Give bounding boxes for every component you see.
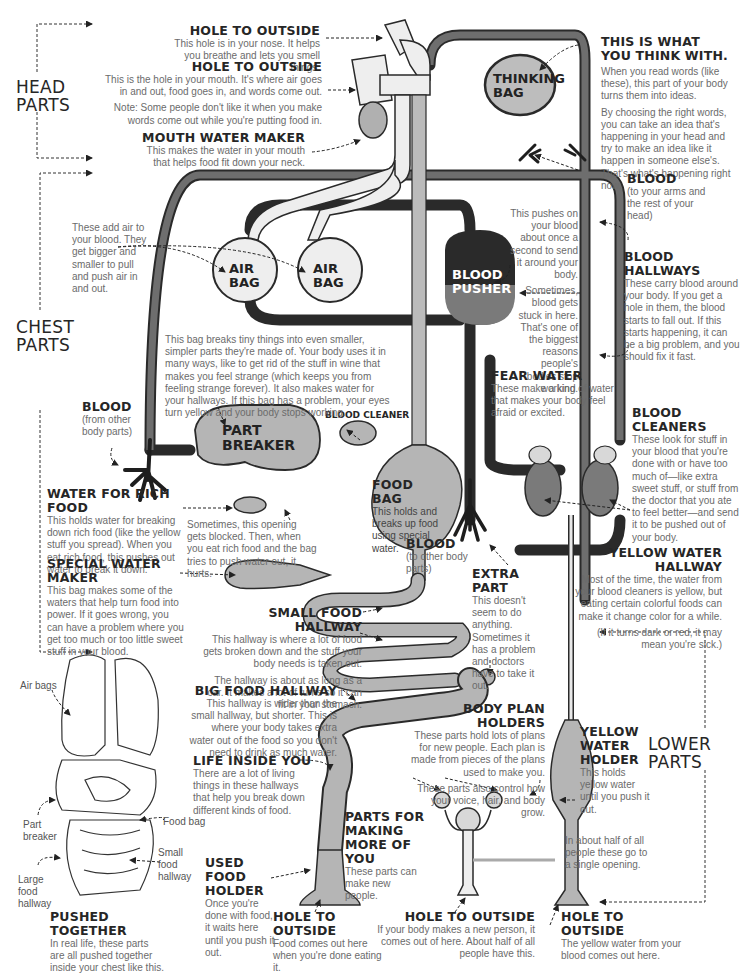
callout-special-water-maker: SPECIAL WATER MAKER This bag makes some …	[47, 557, 187, 658]
callout-title: PUSHED TOGETHER	[50, 910, 165, 938]
callout-title: BLOOD CLEANERS	[632, 406, 741, 434]
callout-text: The yellow water from your blood comes o…	[561, 938, 691, 962]
callout-making-more: PARTS FOR MAKING MORE OF YOU These parts…	[345, 810, 425, 903]
callout-text: These parts hold lots of plans for new p…	[410, 730, 545, 779]
callout-text: This hallway is where a lot of food gets…	[200, 634, 362, 671]
section-chest-parts: CHEST PARTS	[16, 318, 74, 354]
callout-title: USED FOOD HOLDER	[205, 856, 275, 898]
inset-label-large-food-hallway: Large food hallway	[18, 874, 51, 910]
callout-text-2: These parts also control how your voice,…	[410, 783, 545, 820]
callout-body-plan-holders: BODY PLAN HOLDERS These parts hold lots …	[410, 702, 545, 823]
section-head-parts: HEAD PARTS	[16, 78, 70, 114]
inset-label-food-bag: Food bag	[163, 816, 205, 828]
callout-text: If your body makes a new person, it come…	[375, 924, 535, 961]
callout-text: This holds yellow water until you push i…	[580, 767, 655, 816]
callout-yellow-water-holder: YELLOW WATER HOLDER This holds yellow wa…	[580, 725, 655, 816]
callout-title: BIG FOOD HALLWAY	[185, 684, 337, 698]
callout-text: Most of the time, the water from your bl…	[570, 574, 722, 623]
callout-title: BLOOD	[406, 537, 476, 551]
callout-yellow-water-hallway: YELLOW WATER HALLWAY Most of the time, t…	[570, 546, 722, 655]
part-breaker-label: PART BREAKER	[222, 423, 295, 453]
callout-text: (to other body parts)	[406, 551, 476, 575]
callout-hole-baby: HOLE TO OUTSIDE If your body makes a new…	[375, 910, 535, 961]
callout-text: When you read words (like these), this p…	[601, 66, 731, 103]
callout-title: HOLE TO OUTSIDE	[273, 910, 383, 938]
callout-title: SMALL FOOD HALLWAY	[200, 606, 362, 634]
callout-part-breaker: This bag breaks tiny things into even sm…	[165, 334, 395, 419]
callout-text: There are a lot of living things in thes…	[193, 768, 313, 817]
blood-cleaners-organ	[525, 460, 618, 516]
inset-label-air-bags: Air bags	[20, 680, 57, 692]
callout-title: WATER FOR RICH FOOD	[47, 487, 187, 515]
callout-blood-cleaners: BLOOD CLEANERS These look for stuff in y…	[632, 406, 741, 544]
callout-text: This hallway is wider than the small hal…	[185, 698, 337, 759]
food-tube	[412, 95, 426, 445]
callout-title: PARTS FOR MAKING MORE OF YOU	[345, 810, 425, 866]
callout-extra-part: EXTRA PART This doesn't seem to do anyth…	[472, 567, 547, 693]
callout-life-inside-you: LIFE INSIDE YOU There are a lot of livin…	[193, 754, 313, 817]
callout-title: YELLOW WATER HOLDER	[580, 725, 655, 767]
callout-mouth-water-maker: MOUTH WATER MAKER This makes the water i…	[140, 131, 305, 169]
fear-water-organs	[529, 446, 616, 464]
inset-label-small-food-hallway: Small food hallway	[158, 847, 191, 883]
callout-mouth-hole: HOLE TO OUTSIDE This is the hole in your…	[98, 60, 322, 131]
callout-text: (from other body parts)	[82, 414, 152, 438]
blood-cleaner-organ	[340, 421, 376, 445]
callout-title: BODY PLAN HOLDERS	[410, 702, 545, 730]
callout-hole-yellow: HOLE TO OUTSIDE The yellow water from yo…	[561, 910, 691, 962]
callout-blood-hallways: BLOOD HALLWAYS These carry blood around …	[624, 250, 741, 363]
callout-fear-water: FEAR WATER These make a kind of water th…	[491, 369, 616, 420]
callout-title: BLOOD HALLWAYS	[624, 250, 741, 278]
air-bag-left-label: AIR BAG	[229, 262, 260, 290]
callout-text: These carry blood around your body. If y…	[624, 278, 741, 363]
callout-text: Once you're done with food, it waits her…	[205, 898, 275, 959]
callout-title: HOLE TO OUTSIDE	[98, 60, 322, 74]
callout-title: FOOD BAG	[372, 478, 442, 506]
callout-hole-food: HOLE TO OUTSIDE Food comes out here when…	[273, 910, 383, 975]
section-lower-parts: LOWER PARTS	[648, 735, 711, 771]
callout-title: HOLE TO OUTSIDE	[170, 24, 320, 38]
callout-text: These look for stuff in your blood that …	[632, 434, 741, 544]
thinking-bag-label: THINKING BAG	[493, 72, 565, 100]
callout-blood-left: BLOOD (from other body parts)	[82, 400, 152, 438]
callout-title: EXTRA PART	[472, 567, 547, 595]
callout-text: This is the hole in your mouth. It's whe…	[98, 74, 322, 98]
callout-text: These make a kind of water that makes yo…	[491, 383, 616, 420]
inset-label-part-breaker: Part breaker	[23, 819, 57, 843]
callout-text: This makes the water in your mouth that …	[140, 145, 305, 169]
callout-blood-mid: BLOOD (to other body parts)	[406, 537, 476, 575]
callout-text: These parts can make new people.	[345, 866, 425, 903]
callout-title: HOLE TO OUTSIDE	[561, 910, 691, 938]
callout-text: (to your arms and the rest of your head)	[627, 186, 707, 223]
callout-title: BLOOD	[82, 400, 152, 414]
callout-air-bags: These add air to your blood. They get bi…	[72, 222, 147, 295]
inset-organs-drawing	[56, 655, 158, 895]
callout-text: This pushes on your blood about once a s…	[510, 208, 578, 281]
callout-title: FEAR WATER	[491, 369, 616, 383]
callout-text-2: (If it turns dark or red, it may mean yo…	[570, 627, 722, 651]
mouth-water-maker	[359, 102, 387, 138]
callout-blood-top: BLOOD (to your arms and the rest of your…	[627, 172, 707, 223]
callout-text: This bag makes some of the waters that h…	[47, 585, 187, 658]
callout-text: In real life, these parts are all pushed…	[50, 938, 165, 975]
callout-single-opening: In about half of all people these go to …	[565, 835, 655, 872]
callout-opening-blocked: Sometimes, this opening gets blocked. Th…	[187, 519, 317, 580]
callout-title: HOLE TO OUTSIDE	[375, 910, 535, 924]
callout-used-food-holder: USED FOOD HOLDER Once you're done with f…	[205, 856, 275, 959]
callout-title: BLOOD	[627, 172, 707, 186]
air-bag-right-label: AIR BAG	[313, 262, 344, 290]
gallbladder-organ	[234, 497, 266, 513]
callout-title: THIS IS WHAT YOU THINK WITH.	[601, 35, 731, 63]
callout-title: MOUTH WATER MAKER	[140, 131, 305, 145]
callout-note: Note: Some people don't like it when you…	[98, 102, 322, 126]
callout-title: YELLOW WATER HALLWAY	[570, 546, 722, 574]
callout-pushed-together: PUSHED TOGETHER In real life, these part…	[50, 910, 165, 975]
callout-big-food-hallway: BIG FOOD HALLWAY This hallway is wider t…	[185, 684, 337, 759]
blood-pusher-label: BLOOD PUSHER	[452, 268, 511, 296]
callout-title: LIFE INSIDE YOU	[193, 754, 313, 768]
callout-text: This doesn't seem to do anything. Someti…	[472, 595, 547, 693]
callout-title: SPECIAL WATER MAKER	[47, 557, 187, 585]
callout-text: Food comes out here when you're done eat…	[273, 938, 383, 975]
